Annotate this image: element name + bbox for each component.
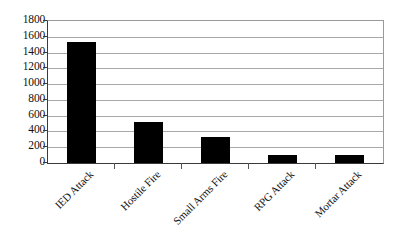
y-axis-tick-label: 1800 <box>1 14 45 26</box>
bar-chart: 020040060080010001200140016001800 IED At… <box>0 0 398 247</box>
y-axis-tick-label: 400 <box>1 124 45 136</box>
y-axis-tick-label: 0 <box>1 156 45 168</box>
y-axis-tick-label: 1200 <box>1 61 45 73</box>
x-axis-category-label: RPG Attack <box>251 168 296 213</box>
x-axis-category-label: Mortar Attack <box>312 168 363 219</box>
gridline <box>48 100 383 101</box>
x-axis-tick-mark <box>181 163 182 169</box>
x-axis-tick-mark <box>114 163 115 169</box>
y-axis-tick-label: 1000 <box>1 77 45 89</box>
x-axis-category-label: IED Attack <box>52 168 95 211</box>
gridline <box>48 131 383 132</box>
bar <box>67 42 96 163</box>
x-axis-tick-mark <box>248 163 249 169</box>
gridline <box>48 53 383 54</box>
plot-area <box>47 20 384 164</box>
x-axis-tick-mark <box>315 163 316 169</box>
gridline <box>48 68 383 69</box>
bar <box>268 155 297 163</box>
y-axis-tick-label: 600 <box>1 109 45 121</box>
y-axis-tick-label: 1600 <box>1 30 45 42</box>
bar <box>335 155 364 163</box>
y-axis-tick-label: 800 <box>1 93 45 105</box>
x-axis-category-label: Small Arms Fire <box>170 168 229 227</box>
x-axis-category-label: Hostile Fire <box>117 168 162 213</box>
bar <box>134 122 163 163</box>
gridline <box>48 84 383 85</box>
y-axis-tick-label: 1400 <box>1 46 45 58</box>
bar <box>201 137 230 163</box>
y-axis-tick-label: 200 <box>1 140 45 152</box>
gridline <box>48 37 383 38</box>
gridline <box>48 116 383 117</box>
